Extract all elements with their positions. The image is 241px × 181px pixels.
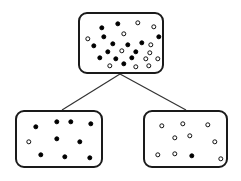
hollow-dot [119, 48, 124, 53]
filled-dot [99, 25, 104, 30]
filled-dot [54, 136, 59, 141]
filled-dot [91, 43, 96, 48]
left-child-node-dot-cloud [17, 112, 101, 166]
hollow-dot [133, 64, 138, 69]
filled-dot [121, 61, 126, 66]
hollow-dot [180, 121, 185, 126]
hollow-dot [85, 36, 90, 41]
right-child-node[interactable] [143, 110, 228, 168]
filled-dot [38, 152, 43, 157]
filled-dot [33, 124, 38, 129]
filled-dot [88, 121, 93, 126]
hollow-dot [146, 63, 151, 68]
hollow-dot [26, 139, 31, 144]
filled-dot [101, 34, 106, 39]
filled-dot [87, 155, 92, 160]
hollow-dot [135, 20, 140, 25]
filled-dot [54, 119, 59, 124]
right-child-node-dot-cloud [145, 112, 226, 166]
filled-dot [133, 49, 138, 54]
filled-dot [113, 56, 118, 61]
filled-dot [115, 21, 120, 26]
hollow-dot [121, 31, 126, 36]
hollow-dot [107, 63, 112, 68]
hollow-dot [147, 50, 152, 55]
hollow-dot [172, 135, 177, 140]
hollow-dot [218, 156, 223, 161]
edge-root-to-right-child [120, 74, 186, 110]
filled-dot [110, 41, 115, 46]
filled-dot [189, 153, 194, 158]
hollow-dot [148, 42, 153, 47]
filled-dot [62, 154, 67, 159]
left-child-node[interactable] [15, 110, 103, 168]
hollow-dot [143, 56, 148, 61]
hollow-dot [155, 152, 160, 157]
decision-tree-diagram [0, 0, 241, 181]
filled-dot [105, 49, 110, 54]
edge-root-to-left-child [62, 74, 120, 110]
hollow-dot [155, 56, 160, 61]
filled-dot [97, 55, 102, 60]
root-node-dot-cloud [80, 14, 162, 72]
hollow-dot [205, 122, 210, 127]
filled-dot [125, 42, 130, 47]
hollow-dot [151, 24, 156, 29]
root-node[interactable] [78, 12, 164, 74]
filled-dot [156, 34, 161, 39]
filled-dot [68, 119, 73, 124]
hollow-dot [212, 139, 217, 144]
filled-dot [129, 55, 134, 60]
filled-dot [139, 40, 144, 45]
filled-dot [77, 139, 82, 144]
hollow-dot [159, 123, 164, 128]
hollow-dot [187, 133, 192, 138]
hollow-dot [172, 151, 177, 156]
